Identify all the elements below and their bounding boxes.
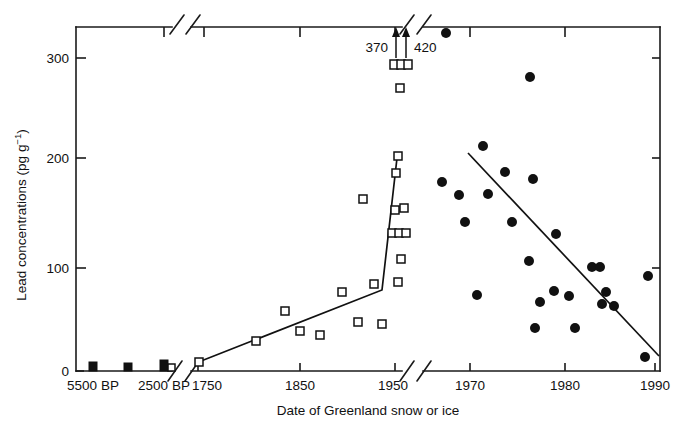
y-tick-label-200: 200: [46, 151, 69, 166]
data-point-circle: [551, 229, 561, 239]
axis-break-marks: [168, 15, 431, 381]
annotation-label-420: 420: [414, 40, 437, 55]
x-tick-label-1970: 1970: [455, 378, 485, 393]
data-point-circle: [524, 256, 534, 266]
data-point-circle: [595, 262, 605, 272]
data-point-open-square: [378, 320, 386, 328]
data-point-circle: [601, 287, 611, 297]
series-open-squares: [195, 84, 410, 366]
data-point-circle: [535, 297, 545, 307]
data-point-open-square: [394, 152, 402, 160]
x-tick-label-1950: 1950: [378, 378, 408, 393]
break-mark-top-right-b: [417, 15, 431, 34]
trend-line-declining: [468, 153, 659, 356]
data-point-open-square: [338, 288, 346, 296]
data-point-open-square: [394, 278, 402, 286]
figure-container: 0 100 200 300 Lead concentrations (pg g−…: [0, 0, 685, 423]
x-axis-tick-labels: 5500 BP 2500 BP 1750 1850 1950 1970 1980…: [67, 378, 670, 393]
series-ancient-ice-markers: [89, 360, 175, 371]
data-point-circle: [597, 299, 607, 309]
break-mark-top-left-b: [186, 15, 200, 34]
x-tick-label-1850: 1850: [285, 378, 315, 393]
series-filled-circles: [437, 28, 653, 362]
data-point-circle: [640, 352, 650, 362]
lead-concentration-scatter-chart: 0 100 200 300 Lead concentrations (pg g−…: [0, 0, 685, 423]
data-point-open-square: [359, 195, 367, 203]
data-point-open-square: [400, 204, 408, 212]
data-point-circle: [525, 72, 535, 82]
data-point-circle: [437, 177, 447, 187]
y-tick-label-0: 0: [61, 364, 69, 379]
x-tick-label-1750: 1750: [192, 378, 222, 393]
data-point-open-square: [281, 307, 289, 315]
data-point-open-square: [402, 229, 410, 237]
data-point-circle: [472, 290, 482, 300]
data-point-square: [89, 362, 97, 371]
y-axis-title-group: Lead concentrations (pg g−1): [12, 129, 29, 300]
y-tick-label-300: 300: [46, 51, 69, 66]
data-point-circle: [570, 323, 580, 333]
data-point-circle: [530, 323, 540, 333]
break-mark-top-left-a: [170, 15, 184, 34]
data-point-circle: [549, 286, 559, 296]
data-point-circle: [500, 167, 510, 177]
y-axis-title-close: ): [14, 129, 29, 134]
offscale-arrowhead-370: [392, 27, 400, 37]
data-point-square: [168, 364, 175, 371]
y-tick-label-100: 100: [46, 261, 69, 276]
data-point-open-square: [195, 358, 203, 366]
data-point-open-square: [296, 327, 304, 335]
x-axis-title: Date of Greenland snow or ice: [277, 403, 459, 418]
data-point-circle: [643, 271, 653, 281]
data-point-open-square: [392, 169, 400, 177]
data-point-open-square: [404, 60, 412, 69]
annotation-label-370: 370: [365, 40, 388, 55]
x-tick-label-1980: 1980: [550, 378, 580, 393]
data-point-square: [160, 360, 168, 371]
x-axis-ticks: [93, 27, 655, 371]
data-point-open-square: [396, 84, 404, 92]
axis-frame: [76, 27, 660, 371]
y-axis-title-exponent: −1: [12, 134, 23, 145]
data-point-circle: [564, 291, 574, 301]
y-axis-title: Lead concentrations (pg g−1): [12, 129, 29, 300]
data-point-open-square: [354, 318, 362, 326]
data-point-circle: [528, 174, 538, 184]
data-point-circle: [454, 190, 464, 200]
data-point-open-square: [391, 206, 399, 214]
data-point-circle: [507, 217, 517, 227]
x-tick-label-2500bp: 2500 BP: [138, 378, 190, 393]
data-point-circle: [478, 141, 488, 151]
data-point-circle: [609, 301, 619, 311]
x-tick-label-1990: 1990: [640, 378, 670, 393]
data-point-open-square: [252, 337, 260, 345]
data-point-circle: [483, 189, 493, 199]
y-axis-title-base: Lead concentrations (pg g: [14, 145, 29, 301]
data-point-open-square: [370, 280, 378, 288]
data-point-circle: [460, 217, 470, 227]
x-tick-label-5500bp: 5500 BP: [67, 378, 119, 393]
y-axis-tick-labels: 0 100 200 300: [46, 51, 69, 379]
data-point-square: [124, 363, 132, 371]
data-point-open-square: [316, 331, 324, 339]
data-point-open-square: [397, 255, 405, 263]
data-point-circle: [441, 28, 451, 38]
